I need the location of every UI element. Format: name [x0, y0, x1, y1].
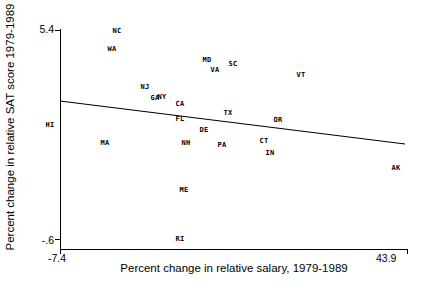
data-point-label: NH: [181, 139, 190, 147]
data-point-label: ME: [179, 186, 188, 194]
data-point-label: CA: [175, 100, 184, 108]
data-point-label: HI: [45, 121, 54, 129]
data-point-label: IN: [265, 149, 274, 157]
data-point-label: PA: [217, 141, 226, 149]
data-point-label: FL: [175, 115, 184, 123]
data-point-label: VA: [210, 66, 219, 74]
data-point-label: NJ: [140, 83, 149, 91]
data-point-label: RI: [175, 235, 184, 243]
data-point-label: OR: [273, 116, 282, 124]
data-point-label: DE: [199, 126, 208, 134]
data-point-label: MA: [100, 139, 109, 147]
data-point-label: TX: [223, 109, 232, 117]
data-point-label: VT: [296, 71, 305, 79]
data-point-label: CT: [259, 137, 268, 145]
regression-fit-line: [60, 101, 405, 144]
data-point-label: SC: [228, 60, 237, 68]
data-point-label: NY: [157, 93, 166, 101]
data-point-label: NC: [112, 27, 121, 35]
data-point-label: WA: [107, 45, 116, 53]
scatter-plot-figure: Percent change in relative SAT score 197…: [0, 0, 425, 290]
data-point-label: AK: [391, 164, 400, 172]
plot-canvas: [0, 0, 425, 290]
data-point-label: MD: [202, 56, 211, 64]
